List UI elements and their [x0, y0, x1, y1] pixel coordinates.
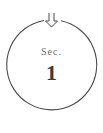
- section-prefix: Sec.: [0, 46, 103, 57]
- double-down-arrow-icon: [46, 13, 58, 27]
- section-badge: Sec. 1: [0, 0, 103, 133]
- section-number: 1: [0, 60, 103, 86]
